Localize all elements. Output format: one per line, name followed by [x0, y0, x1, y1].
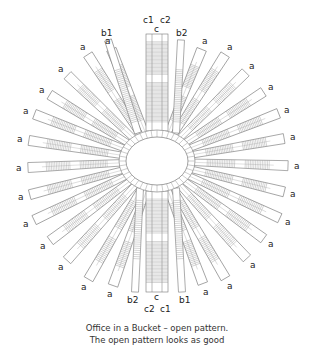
label-a: a — [105, 36, 111, 46]
label-a: a — [227, 42, 233, 52]
spoke-a — [193, 157, 288, 170]
radial-pattern-diagram: b1c1cc2b2b2cc2c1b1aaaaaaaaaaaaaaaaaaaaaa… — [0, 0, 314, 330]
spoke-a — [191, 134, 285, 160]
label-c: c — [154, 24, 159, 34]
label-a: a — [23, 106, 29, 116]
label-b2: b2 — [176, 28, 187, 38]
label-c1: c1 — [160, 304, 171, 314]
label-c2: c2 — [144, 304, 155, 314]
label-a: a — [81, 282, 87, 292]
label-a: a — [23, 219, 29, 229]
strip-c-bottom — [146, 191, 168, 292]
label-b1: b1 — [179, 295, 190, 305]
label-c2: c2 — [160, 15, 171, 25]
label-a: a — [290, 132, 296, 142]
label-a: a — [227, 281, 233, 291]
strip-c-top — [146, 34, 168, 131]
label-b2: b2 — [127, 295, 138, 305]
label-a: a — [17, 134, 23, 144]
hub-opening — [126, 137, 188, 185]
label-c: c — [154, 292, 159, 302]
label-a: a — [268, 239, 274, 249]
label-a: a — [294, 161, 300, 171]
label-a: a — [58, 64, 64, 74]
label-a: a — [250, 260, 256, 270]
label-c1: c1 — [143, 15, 154, 25]
caption-line-1: Office in a Bucket – open pattern. — [0, 322, 314, 334]
label-a: a — [249, 61, 255, 71]
label-a: a — [16, 163, 22, 173]
label-a: a — [203, 287, 209, 297]
label-a: a — [18, 192, 24, 202]
label-a: a — [268, 82, 274, 92]
label-a: a — [202, 36, 208, 46]
caption-line-2: The open pattern looks as good — [0, 334, 314, 346]
label-a: a — [107, 289, 113, 299]
label-a: a — [80, 42, 86, 52]
label-a: a — [58, 262, 64, 272]
label-a: a — [40, 241, 46, 251]
label-a: a — [290, 189, 296, 199]
label-a: a — [284, 105, 290, 115]
center-hub — [119, 130, 195, 192]
label-a: a — [285, 217, 291, 227]
label-a: a — [39, 85, 45, 95]
